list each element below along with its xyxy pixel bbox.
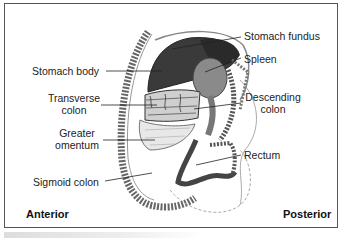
sigmoid-rectum-shape	[178, 140, 235, 184]
label-greater-omentum: Greater omentum	[52, 127, 102, 151]
label-descending-colon: Descending colon	[240, 91, 306, 115]
label-descending-colon-line2: colon	[240, 103, 306, 115]
greater-omentum-shape	[139, 120, 195, 150]
label-greater-omentum-line1: Greater	[52, 127, 102, 139]
label-transverse-colon: Transverse colon	[44, 92, 104, 116]
descending-colon-shape	[208, 96, 213, 135]
label-transverse-colon-line1: Transverse	[44, 92, 104, 104]
leader-sigmoid-colon	[105, 173, 152, 181]
label-spleen: Spleen	[244, 53, 277, 65]
label-sigmoid-colon: Sigmoid colon	[33, 176, 99, 188]
label-greater-omentum-line2: omentum	[52, 139, 102, 151]
label-posterior: Posterior	[283, 208, 331, 220]
label-stomach-fundus: Stomach fundus	[244, 30, 320, 42]
label-rectum: Rectum	[244, 149, 280, 161]
label-stomach-body: Stomach body	[32, 65, 99, 77]
figure-caption-faded	[4, 232, 204, 238]
label-transverse-colon-line2: colon	[44, 104, 104, 116]
transverse-colon-shape	[145, 90, 200, 121]
leader-rectum	[196, 155, 241, 165]
label-anterior: Anterior	[26, 208, 69, 220]
label-descending-colon-line1: Descending	[240, 91, 306, 103]
